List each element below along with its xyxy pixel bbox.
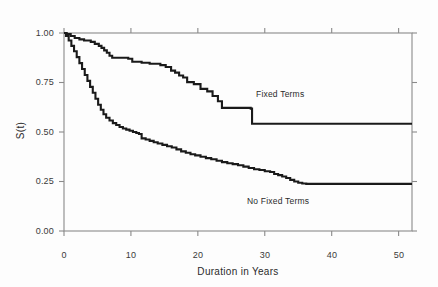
ytick-label-075: 0.75 bbox=[24, 77, 54, 87]
plot-area bbox=[0, 0, 438, 287]
y-axis-title: S(t) bbox=[15, 101, 26, 161]
xtick-label-40: 40 bbox=[317, 250, 347, 260]
ytick-label-05: 0.50 bbox=[24, 127, 54, 137]
plot-frame bbox=[64, 33, 412, 231]
ytick-label-0: 0.00 bbox=[24, 226, 54, 236]
ytick-label-1: 1.00 bbox=[24, 28, 54, 38]
x-axis-title: Duration in Years bbox=[64, 266, 412, 277]
xtick-label-30: 30 bbox=[250, 250, 280, 260]
xtick-label-0: 0 bbox=[49, 250, 79, 260]
series-label-no-fixed-terms: No Fixed Terms bbox=[247, 196, 309, 206]
survival-chart: 1.00 0.75 0.50 0.25 0.00 0 10 20 30 40 5… bbox=[0, 0, 438, 287]
series-label-fixed-terms: Fixed Terms bbox=[256, 89, 304, 99]
xtick-label-10: 10 bbox=[116, 250, 146, 260]
ytick-label-025: 0.25 bbox=[24, 176, 54, 186]
series-line-fixed-terms bbox=[64, 33, 412, 124]
xtick-label-50: 50 bbox=[384, 250, 414, 260]
xtick-label-20: 20 bbox=[183, 250, 213, 260]
